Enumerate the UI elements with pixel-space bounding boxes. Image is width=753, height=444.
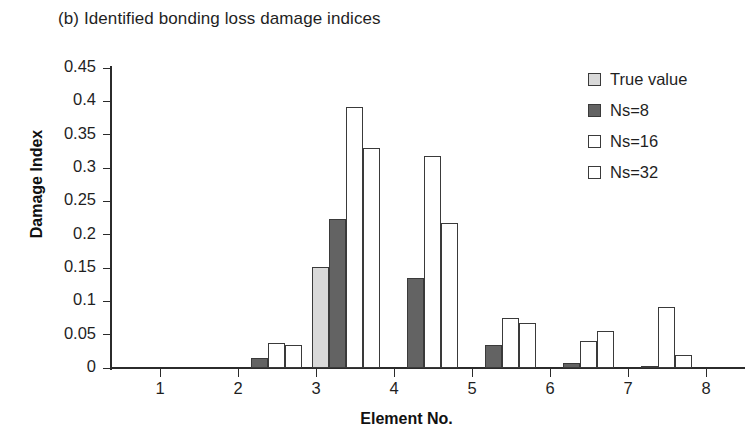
chart-legend: True valueNs=8Ns=16Ns=32 [588, 66, 748, 190]
legend-swatch-icon [588, 104, 601, 117]
y-tick-label: 0.3 [34, 157, 96, 176]
x-tick-label: 4 [374, 379, 414, 398]
bar [441, 223, 458, 368]
bar [580, 341, 597, 368]
y-tick-label: 0.15 [34, 257, 96, 276]
y-tick-label: 0.2 [34, 224, 96, 243]
y-axis-title: Damage Index [28, 84, 46, 284]
x-tick-label: 1 [140, 379, 180, 398]
chart-title: (b) Identified bonding loss damage indic… [58, 9, 381, 29]
bar [675, 355, 692, 368]
y-tick-label: 0.45 [34, 57, 96, 76]
bar [502, 318, 519, 368]
x-tick-label: 7 [608, 379, 648, 398]
y-tick-label: 0.25 [34, 190, 96, 209]
bar [329, 219, 346, 368]
legend-item-label: True value [610, 70, 687, 89]
legend-swatch-icon [588, 73, 601, 86]
y-tick-label: 0 [34, 357, 96, 376]
legend-item: Ns=16 [588, 128, 748, 154]
bar [363, 148, 380, 368]
x-tick-label: 6 [530, 379, 570, 398]
y-tick-mark [103, 268, 111, 269]
bar [658, 307, 675, 368]
y-tick-label: 0.1 [34, 290, 96, 309]
x-tick-mark [238, 368, 239, 377]
legend-item-label: Ns=32 [610, 163, 658, 182]
x-tick-label: 2 [218, 379, 258, 398]
legend-item: Ns=32 [588, 159, 748, 185]
x-tick-label: 3 [296, 379, 336, 398]
y-tick-mark [103, 101, 111, 102]
y-tick-label: 0.35 [34, 124, 96, 143]
bar [424, 156, 441, 368]
y-tick-mark [103, 134, 111, 135]
x-tick-label: 5 [452, 379, 492, 398]
x-tick-mark [706, 368, 707, 377]
y-tick-mark [103, 201, 111, 202]
y-tick-label: 0.05 [34, 324, 96, 343]
chart-figure: (b) Identified bonding loss damage indic… [0, 0, 753, 444]
bar [251, 358, 268, 368]
legend-swatch-icon [588, 166, 601, 179]
bar [641, 366, 658, 368]
bar [485, 345, 502, 368]
x-tick-label: 8 [686, 379, 726, 398]
bar [519, 323, 536, 368]
y-tick-label: 0.4 [34, 90, 96, 109]
legend-item-label: Ns=16 [610, 132, 658, 151]
x-tick-mark [160, 368, 161, 377]
y-tick-mark [103, 301, 111, 302]
bar [268, 343, 285, 368]
legend-item-label: Ns=8 [610, 101, 649, 120]
bar [346, 107, 363, 368]
x-axis-title: Element No. [0, 410, 753, 428]
legend-item: Ns=8 [588, 97, 748, 123]
y-tick-mark [103, 68, 111, 69]
bar [407, 278, 424, 368]
x-tick-mark [550, 368, 551, 377]
bar [597, 331, 614, 368]
y-tick-mark [103, 334, 111, 335]
legend-swatch-icon [588, 135, 601, 148]
y-tick-mark [103, 168, 111, 169]
bar [563, 363, 580, 368]
bar [312, 267, 329, 368]
x-tick-mark [472, 368, 473, 377]
x-tick-mark [316, 368, 317, 377]
legend-item: True value [588, 66, 748, 92]
x-tick-mark [628, 368, 629, 377]
bar [285, 345, 302, 368]
y-tick-mark [103, 368, 111, 369]
y-tick-mark [103, 234, 111, 235]
x-tick-mark [394, 368, 395, 377]
